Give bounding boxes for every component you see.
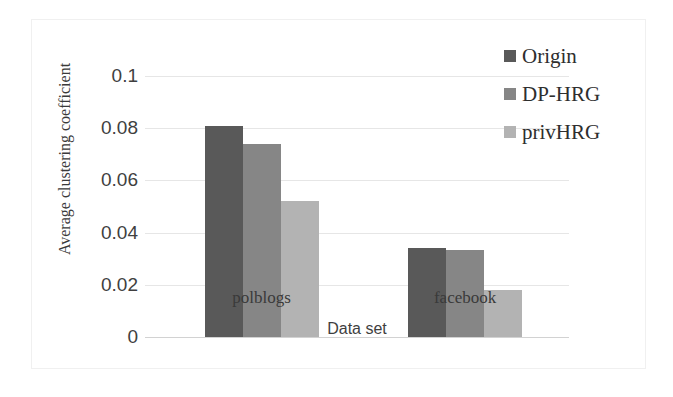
chart-frame: Average clustering coefficient 00.020.04… — [31, 19, 646, 369]
x-axis-tick-label-facebook: facebook — [365, 288, 565, 308]
y-axis-tick-labels: 00.020.040.060.080.1 — [70, 76, 138, 337]
x-axis-title: Data set — [145, 320, 569, 338]
legend-swatch-icon — [504, 88, 516, 100]
y-axis-tick-label: 0.04 — [78, 222, 138, 244]
y-axis-tick-label: 0.06 — [78, 169, 138, 191]
x-axis-tick-label-polblogs: polblogs — [162, 288, 362, 308]
bar-polblogs-privhrg — [281, 201, 319, 337]
legend-label: DP-HRG — [522, 82, 600, 107]
y-axis-tick-label: 0.08 — [78, 117, 138, 139]
y-axis-tick-label: 0.1 — [78, 65, 138, 87]
y-axis-tick-label: 0 — [78, 326, 138, 348]
legend-item-dp-hrg: DP-HRG — [504, 75, 600, 113]
legend-swatch-icon — [504, 126, 516, 138]
legend-swatch-icon — [504, 50, 516, 62]
y-axis-tick-label: 0.02 — [78, 274, 138, 296]
legend-label: Origin — [522, 44, 577, 69]
legend-item-privhrg: privHRG — [504, 113, 600, 151]
legend-item-origin: Origin — [504, 37, 600, 75]
legend-label: privHRG — [522, 120, 600, 145]
chart-legend: OriginDP-HRGprivHRG — [504, 37, 600, 151]
bar-polblogs-dp-hrg — [243, 144, 281, 337]
